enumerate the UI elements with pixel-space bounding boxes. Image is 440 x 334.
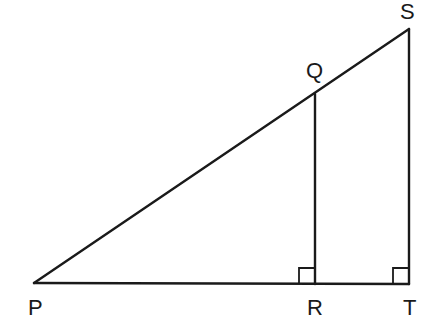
right-angle-marker-r [299,268,315,284]
vertex-label-s: S [400,0,415,24]
geometry-diagram: S Q P R T [0,0,440,334]
right-angle-marker-t [393,268,409,284]
segment-pt [34,283,409,284]
vertex-label-q: Q [306,58,323,83]
vertex-label-r: R [307,295,323,320]
vertex-label-p: P [28,295,43,320]
segment-ps [34,29,409,283]
vertex-label-t: T [403,295,416,320]
